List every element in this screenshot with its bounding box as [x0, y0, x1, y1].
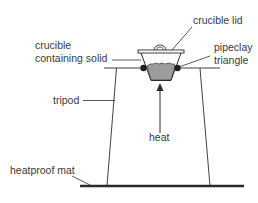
tripod-right-leg: [200, 68, 210, 186]
lid-knob: [154, 45, 166, 50]
pipeclay-leader: [179, 56, 210, 67]
crucible-lid: [138, 45, 184, 53]
tripod: [107, 68, 210, 186]
solid-contents: [147, 63, 175, 80]
heat-arrow: [157, 83, 164, 133]
label-crucible-line1: crucible: [35, 39, 71, 51]
label-crucible-line2: containing solid: [35, 52, 108, 64]
label-heat: heat: [149, 131, 170, 143]
label-tripod: tripod: [53, 94, 79, 106]
crucible-heating-diagram: crucible lid crucible containing solid p…: [0, 0, 258, 203]
tripod-left-leg: [107, 68, 117, 186]
label-pipeclay-line1: pipeclay: [214, 41, 253, 53]
label-crucible-lid: crucible lid: [193, 14, 243, 26]
lid-leader: [172, 27, 192, 50]
mat-leader: [72, 176, 90, 185]
label-heatproof-mat: heatproof mat: [10, 164, 75, 176]
label-pipeclay-line2: triangle: [214, 54, 249, 66]
